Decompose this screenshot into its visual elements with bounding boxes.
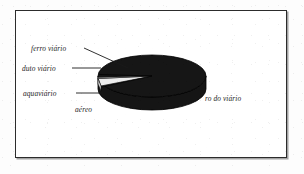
pie-label-duto-viario: duto viário (22, 65, 56, 72)
pie-label-rodoviario: ro do viário (205, 95, 241, 102)
pie-chart-graphic (0, 0, 304, 174)
pie-label-aereo: aéreo (75, 106, 92, 113)
pie-chart: ferro viário duto viário aquaviário aére… (0, 0, 304, 174)
pie-label-aquaviario: aquaviário (23, 90, 56, 97)
scanned-page-background: ferro viário duto viário aquaviário aére… (0, 0, 304, 174)
pie-label-ferro-viario: ferro viário (31, 45, 66, 52)
